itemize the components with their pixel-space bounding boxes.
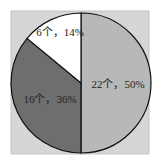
slice-label: 16个，36% — [23, 93, 76, 105]
slice-label: 6个，14% — [36, 26, 84, 38]
pie-chart: 22个，50%16个，36%6个，14% — [0, 0, 161, 165]
slice-label: 22个，50% — [91, 78, 144, 90]
